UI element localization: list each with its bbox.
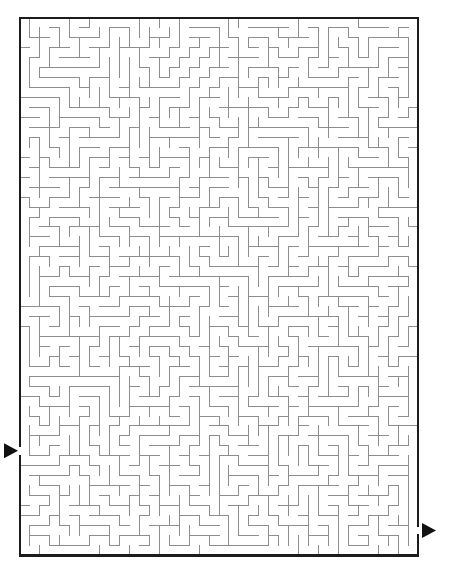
maze-graphic <box>0 0 454 582</box>
maze-figure <box>0 0 454 582</box>
puzzle-page <box>0 0 454 582</box>
